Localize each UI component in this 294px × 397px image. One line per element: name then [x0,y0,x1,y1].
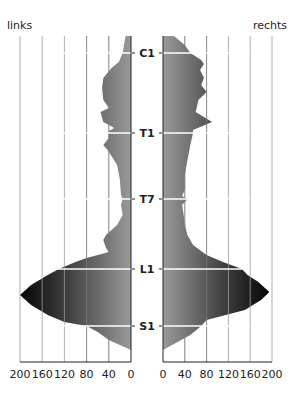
level-label-l1: L1 [140,263,155,276]
level-label-c1: C1 [139,47,155,60]
left-side-label: links [7,19,32,32]
level-label-t1: T1 [139,127,154,140]
level-label-s1: S1 [139,320,155,333]
right-side-label: rechts [253,19,287,32]
right-tick-label: 0 [160,368,167,381]
left-tick-label: 200 [10,368,31,381]
left-tick-label: 80 [80,368,94,381]
left-tick-label: 120 [54,368,75,381]
side-labels: links rechts [7,19,287,32]
right-tick-label: 120 [218,368,239,381]
right-tick-label: 40 [178,368,192,381]
left-tick-label: 160 [32,368,53,381]
right-tick-label: 200 [262,368,283,381]
right-tick-label: 160 [240,368,261,381]
left-tick-label: 40 [102,368,116,381]
left-profile-area [20,36,131,350]
left-tick-label: 0 [128,368,135,381]
spine-profile-chart: links rechts C1T1T7L1S120016012080400040… [0,0,294,397]
level-label-t7: T7 [139,193,154,206]
right-profile-area [163,36,269,350]
right-tick-label: 80 [200,368,214,381]
